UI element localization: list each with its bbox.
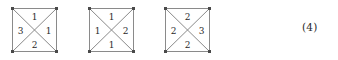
- diagram-square-1: 1 3 1 2: [11, 7, 58, 53]
- square-2-label-top: 1: [106, 13, 118, 22]
- square-3-label-top: 2: [182, 13, 194, 22]
- square-1-label-left: 3: [15, 27, 27, 36]
- diagram-square-2: 1 1 2 1: [88, 7, 135, 53]
- square-2-label-bottom: 1: [106, 41, 118, 50]
- square-1-label-right: 1: [43, 27, 55, 36]
- figure-canvas: 1 3 1 2 1 1 2 1 2 2 3 2: [0, 0, 338, 60]
- square-2-label-left: 1: [92, 27, 104, 36]
- square-3-label-left: 2: [168, 27, 180, 36]
- diagram-square-3: 2 2 3 2: [164, 7, 211, 53]
- square-1-label-top: 1: [29, 13, 41, 22]
- square-3-label-bottom: 2: [182, 41, 194, 50]
- equation-number: (4): [302, 21, 317, 33]
- square-2-label-right: 2: [120, 27, 132, 36]
- square-3-label-right: 3: [196, 27, 208, 36]
- square-1-label-bottom: 2: [29, 41, 41, 50]
